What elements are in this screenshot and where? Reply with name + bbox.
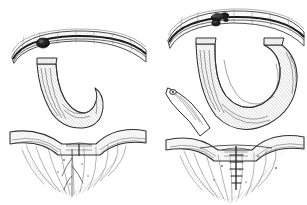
engraving-canvas bbox=[0, 0, 307, 205]
illustration-plate bbox=[0, 0, 307, 205]
